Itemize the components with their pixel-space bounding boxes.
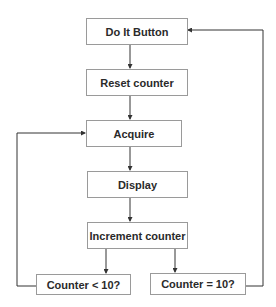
node-counter-lt-10: Counter < 10? (36, 274, 131, 295)
loop-lt10-to-acquire (17, 133, 85, 286)
node-acquire: Acquire (86, 120, 182, 147)
node-reset-counter: Reset counter (86, 69, 188, 96)
node-label: Counter < 10? (47, 279, 121, 291)
node-increment-counter: Increment counter (87, 222, 188, 249)
node-label: Increment counter (90, 230, 186, 242)
node-display: Display (87, 171, 188, 198)
node-label: Display (118, 179, 157, 191)
node-label: Acquire (114, 128, 155, 140)
connector-lines (0, 0, 276, 307)
node-label: Counter = 10? (161, 278, 235, 290)
node-counter-eq-10: Counter = 10? (150, 273, 246, 295)
node-label: Reset counter (100, 77, 173, 89)
node-label: Do It Button (106, 26, 169, 38)
node-do-it-button: Do It Button (86, 18, 188, 45)
loop-eq10-to-doit (188, 30, 263, 286)
